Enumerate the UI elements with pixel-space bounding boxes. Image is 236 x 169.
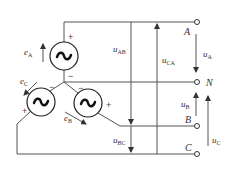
wire-a <box>64 22 194 42</box>
wire-n <box>64 70 194 82</box>
terminal-b-label: B <box>185 115 191 125</box>
source-c-plus: + <box>22 107 27 116</box>
u-ab-label: uAB <box>113 45 126 55</box>
u-c-label: uC <box>212 136 221 146</box>
terminal-b <box>195 124 200 129</box>
terminal-n-label: N <box>206 78 213 88</box>
source-b-plus: + <box>106 101 111 110</box>
source-a-minus: − <box>68 72 73 81</box>
u-ca-label: uCA <box>162 56 175 66</box>
u-bc-label: uBC <box>113 136 126 146</box>
source-b-minus: − <box>78 84 83 93</box>
u-b-label: uB <box>181 100 190 110</box>
emf-a-label: eA <box>24 48 32 58</box>
u-a-label: uA <box>203 50 212 60</box>
emf-c-label: eC <box>20 77 28 87</box>
terminal-a <box>195 20 200 25</box>
terminal-a-label: A <box>184 27 190 37</box>
wire-b <box>98 113 194 126</box>
terminal-c <box>195 152 200 157</box>
source-c-minus: − <box>49 83 54 92</box>
source-a-plus: + <box>68 33 73 42</box>
terminal-n <box>195 80 200 85</box>
emf-b-label: eB <box>64 114 72 124</box>
terminal-c-label: C <box>185 143 192 153</box>
three-phase-circuit-diagram: + − + − + − eA eC eB uAB uBC uCA uA uB u… <box>0 0 236 169</box>
